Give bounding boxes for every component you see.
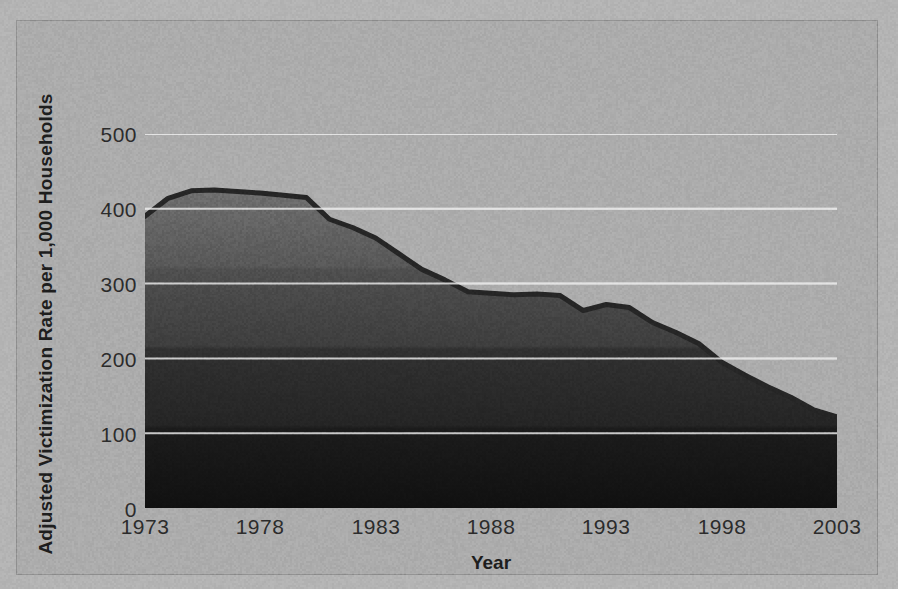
scanned-page: Adjusted Victimization Rate per 1,000 Ho… bbox=[0, 0, 898, 589]
y-axis-title: Adjusted Victimization Rate per 1,000 Ho… bbox=[35, 89, 57, 559]
plot-area bbox=[145, 134, 837, 508]
x-tick-1978: 1978 bbox=[215, 515, 305, 539]
x-tick-1998: 1998 bbox=[677, 515, 767, 539]
x-axis-title: Year bbox=[145, 552, 837, 574]
y-tick-100: 100 bbox=[77, 424, 137, 445]
area-chart-svg bbox=[145, 134, 837, 508]
y-tick-500: 500 bbox=[77, 124, 137, 145]
chart-frame: Adjusted Victimization Rate per 1,000 Ho… bbox=[16, 20, 878, 575]
y-tick-400: 400 bbox=[77, 199, 137, 220]
x-axis-tick-labels: 1973 1978 1983 1988 1993 1998 2003 bbox=[145, 515, 837, 545]
x-tick-1988: 1988 bbox=[446, 515, 536, 539]
x-tick-1973: 1973 bbox=[100, 515, 190, 539]
y-axis-tick-labels: 500 400 300 200 100 0 bbox=[67, 134, 137, 508]
y-axis-title-holder: Adjusted Victimization Rate per 1,000 Ho… bbox=[17, 21, 18, 22]
x-tick-1983: 1983 bbox=[331, 515, 421, 539]
y-tick-200: 200 bbox=[77, 349, 137, 370]
x-tick-2003: 2003 bbox=[792, 515, 882, 539]
area-fill bbox=[145, 190, 837, 508]
x-tick-1993: 1993 bbox=[561, 515, 651, 539]
y-tick-300: 300 bbox=[77, 274, 137, 295]
